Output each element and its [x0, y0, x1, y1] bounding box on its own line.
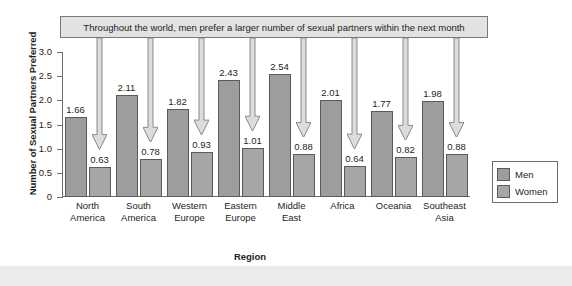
down-arrow-icon — [347, 38, 362, 149]
chart-figure: Number of Sexual Partners Preferred 00.5… — [0, 0, 572, 286]
y-axis-tick — [57, 197, 63, 198]
bar-value-label-men: 1.66 — [58, 104, 94, 115]
y-axis-tick-label: 1.5 — [22, 119, 52, 130]
bar-value-label-men: 2.54 — [262, 61, 298, 72]
callout-banner-text: Throughout the world, men prefer a large… — [83, 22, 464, 33]
legend-item-women: Women — [497, 183, 553, 199]
bar-women — [395, 157, 417, 197]
legend-label-men: Men — [515, 169, 533, 180]
bar-value-label-women: 0.78 — [133, 146, 169, 157]
y-axis-tick-label: 0.5 — [22, 167, 52, 178]
bar-value-label-men: 1.82 — [160, 96, 196, 107]
x-axis-group-label-line: Asia — [410, 212, 480, 224]
bar-women — [293, 154, 315, 197]
y-axis-tick-label: 0 — [22, 191, 52, 202]
bar-value-label-women: 0.88 — [286, 141, 322, 152]
down-arrow-icon — [296, 38, 311, 137]
y-axis-tick-label: 1.0 — [22, 143, 52, 154]
bar-value-label-women: 1.01 — [235, 135, 271, 146]
callout-banner: Throughout the world, men prefer a large… — [60, 16, 488, 38]
bar-value-label-men: 1.98 — [415, 88, 451, 99]
bar-women — [191, 152, 213, 197]
y-axis-tick-label: 3.0 — [22, 46, 52, 57]
bar-men — [320, 100, 342, 197]
bar-men — [167, 109, 189, 197]
y-axis-tick-label: 2.0 — [22, 94, 52, 105]
bar-value-label-women: 0.88 — [439, 141, 475, 152]
page-bottom-strip — [0, 266, 572, 286]
bar-women — [89, 167, 111, 197]
bar-women — [344, 166, 366, 197]
bar-men — [269, 74, 291, 197]
legend-swatch-women-icon — [497, 185, 510, 198]
bar-women — [242, 148, 264, 197]
down-arrow-icon — [449, 38, 464, 137]
bar-value-label-women: 0.64 — [337, 153, 373, 164]
legend: Men Women — [492, 161, 558, 203]
legend-label-women: Women — [515, 186, 548, 197]
down-arrow-icon — [143, 38, 158, 142]
bar-value-label-women: 0.82 — [388, 144, 424, 155]
legend-item-men: Men — [497, 166, 553, 182]
bar-value-label-men: 2.01 — [313, 87, 349, 98]
bar-value-label-men: 2.11 — [109, 82, 145, 93]
legend-swatch-men-icon — [497, 168, 510, 181]
bar-women — [446, 154, 468, 197]
bar-women — [140, 159, 162, 197]
down-arrow-icon — [194, 38, 209, 135]
down-arrow-icon — [92, 38, 107, 150]
y-axis-tick-label: 2.5 — [22, 70, 52, 81]
x-axis-title: Region — [0, 251, 500, 262]
down-arrow-icon — [398, 38, 413, 140]
bar-value-label-men: 2.43 — [211, 67, 247, 78]
x-axis-group-label: SoutheastAsia — [410, 200, 480, 223]
x-axis-group-label-line: Southeast — [410, 200, 480, 212]
x-axis-group-label-line: East — [257, 212, 327, 224]
bar-value-label-women: 0.63 — [82, 154, 118, 165]
bar-value-label-men: 1.77 — [364, 98, 400, 109]
down-arrow-icon — [245, 38, 260, 131]
bar-value-label-women: 0.93 — [184, 139, 220, 150]
